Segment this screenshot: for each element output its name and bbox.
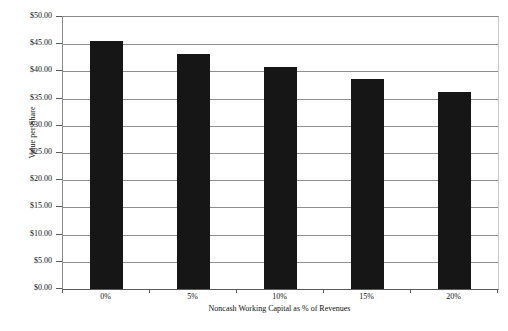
plot-area [62, 16, 499, 290]
bar [264, 67, 296, 289]
bar [351, 79, 383, 289]
bar [177, 54, 209, 289]
y-axis-tick-label: $50.00 [8, 12, 52, 20]
y-axis-tick-labels: $0.00$5.00$10.00$15.00$20.00$25.00$30.00… [0, 0, 52, 331]
y-axis-tick-label: $15.00 [8, 202, 52, 210]
x-axis-tick-label: 10% [250, 292, 310, 302]
bar [438, 92, 470, 289]
y-axis-tick-label: $30.00 [8, 121, 52, 129]
x-axis-title: Noncash Working Capital as % of Revenues [62, 304, 497, 313]
x-axis-tick-label: 5% [163, 292, 223, 302]
y-axis-tick-label: $40.00 [8, 66, 52, 74]
y-axis-tick-label: $5.00 [8, 257, 52, 265]
bars-layer [63, 17, 498, 289]
y-axis-tick-label: $25.00 [8, 148, 52, 156]
x-axis-tick-label: 20% [424, 292, 484, 302]
x-axis-tick-mark [497, 289, 498, 293]
y-axis-tick-label: $10.00 [8, 230, 52, 238]
x-axis-tick-label: 0% [76, 292, 136, 302]
bar-chart: Value per Share $0.00$5.00$10.00$15.00$2… [0, 0, 508, 331]
y-axis-tick-label: $35.00 [8, 94, 52, 102]
y-axis-tick-label: $20.00 [8, 175, 52, 183]
y-axis-tick-label: $45.00 [8, 39, 52, 47]
y-axis-tick-label: $0.00 [8, 284, 52, 292]
x-axis-tick-label: 15% [337, 292, 397, 302]
bar [90, 41, 122, 289]
